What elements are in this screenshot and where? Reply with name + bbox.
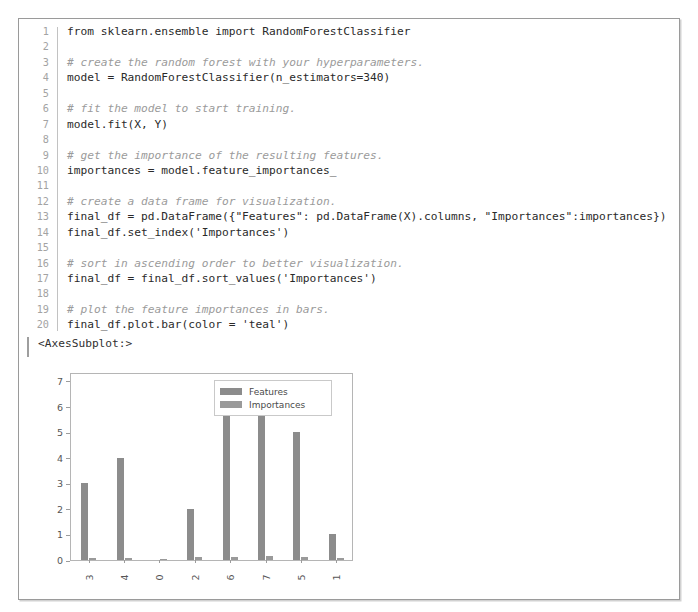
code-source: final_df.set_index('Importances') [67,225,289,240]
legend-swatch [220,388,242,395]
line-number: 17 [19,271,49,286]
x-tick-mark [195,560,196,563]
code-source: final_df = pd.DataFrame({"Features": pd.… [67,209,666,224]
bar-importances [231,557,238,560]
code-line: 10importances = model.feature_importance… [19,163,679,178]
code-source: model = RandomForestClassifier(n_estimat… [67,70,390,85]
code-comment: # create the random forest with your hyp… [67,55,424,70]
x-tick-mark [124,560,125,563]
code-comment: # create a data frame for visualization. [67,194,336,209]
bar-group [177,374,212,560]
line-number: 13 [19,209,49,224]
bar-features [223,407,230,560]
x-tick-label: 5 [295,571,306,585]
x-tick-mark [230,560,231,563]
x-tick-label: 3 [83,571,94,585]
line-number: 6 [19,101,49,116]
line-number: 8 [19,132,49,147]
code-line: 14final_df.set_index('Importances') [19,225,679,240]
bar-group [71,374,106,560]
x-tick-mark [336,560,337,563]
code-comment: # get the importance of the resulting fe… [67,148,384,163]
bar-importances [195,557,202,560]
code-line: 6# fit the model to start training. [19,101,679,116]
x-tick-mark [301,560,302,563]
x-tick-mark [89,560,90,563]
bar-importances [89,558,96,560]
line-number: 9 [19,148,49,163]
legend-label: Features [249,387,288,397]
legend-swatch [220,401,242,408]
x-tick-label: 1 [331,571,342,585]
code-line: 5 [19,86,679,101]
code-source [67,178,74,193]
x-tick-label: 2 [189,571,200,585]
x-tick-label: 6 [225,571,236,585]
bar-group [142,374,177,560]
x-tick-label: 4 [119,571,130,585]
x-tick-label: 7 [260,571,271,585]
output-prompt-bar [27,337,29,357]
axes-subplot-repr: <AxesSubplot:> [38,337,132,350]
line-number: 3 [19,55,49,70]
code-line: 3# create the random forest with your hy… [19,55,679,70]
code-line: 8 [19,132,679,147]
x-tick-mark [266,560,267,563]
code-line: 2 [19,39,679,54]
line-number: 11 [19,178,49,193]
code-line: 4model = RandomForestClassifier(n_estima… [19,70,679,85]
code-comment: # fit the model to start training. [67,101,296,116]
legend-item: Importances [220,398,325,411]
code-source: from sklearn.ensemble import RandomFores… [67,24,411,39]
bar-importances [337,558,344,560]
bar-importances [125,558,132,560]
code-line: 20final_df.plot.bar(color = 'teal') [19,317,679,332]
bar-features [117,458,124,560]
line-number: 19 [19,302,49,317]
code-line: 12# create a data frame for visualizatio… [19,194,679,209]
code-line: 19# plot the feature importances in bars… [19,302,679,317]
line-number: 20 [19,317,49,332]
bar-features [293,432,300,560]
code-line: 17final_df = final_df.sort_values('Impor… [19,271,679,286]
code-line: 13final_df = pd.DataFrame({"Features": p… [19,209,679,224]
code-source: importances = model.feature_importances_ [67,163,336,178]
bar-features [81,483,88,560]
bar-importances [160,559,167,560]
line-number: 4 [19,70,49,85]
code-source [67,240,74,255]
plot-area: 34026751 FeaturesImportances [70,373,353,561]
cell-output-text: <AxesSubplot:> [19,337,679,361]
code-source: final_df = final_df.sort_values('Importa… [67,271,377,286]
code-line: 9# get the importance of the resulting f… [19,148,679,163]
code-line: 16# sort in ascending order to better vi… [19,256,679,271]
x-tick-mark [159,560,160,563]
chart-legend: FeaturesImportances [214,380,332,416]
code-source [67,86,74,101]
bar-features [187,509,194,560]
code-source [67,286,74,301]
line-number: 1 [19,24,49,39]
code-comment: # sort in ascending order to better visu… [67,256,404,271]
bar-importances [301,557,308,560]
chart-output: 01234567 34026751 FeaturesImportances [37,369,361,591]
legend-item: Features [220,385,325,398]
bar-group [106,374,141,560]
code-line-list: 1from sklearn.ensemble import RandomFore… [19,24,679,333]
code-line: 7model.fit(X, Y) [19,117,679,132]
code-line: 1from sklearn.ensemble import RandomFore… [19,24,679,39]
line-number: 2 [19,39,49,54]
line-number: 15 [19,240,49,255]
bar-features [329,534,336,560]
line-number: 18 [19,286,49,301]
code-source: final_df.plot.bar(color = 'teal') [67,317,289,332]
code-source [67,132,74,147]
code-comment: # plot the feature importances in bars. [67,302,330,317]
code-line: 11 [19,178,679,193]
legend-label: Importances [249,400,305,410]
x-tick-label: 0 [154,571,165,585]
line-number: 14 [19,225,49,240]
code-editor[interactable]: 1from sklearn.ensemble import RandomFore… [19,24,679,336]
code-source: model.fit(X, Y) [67,117,168,132]
bar-importances [266,556,273,560]
